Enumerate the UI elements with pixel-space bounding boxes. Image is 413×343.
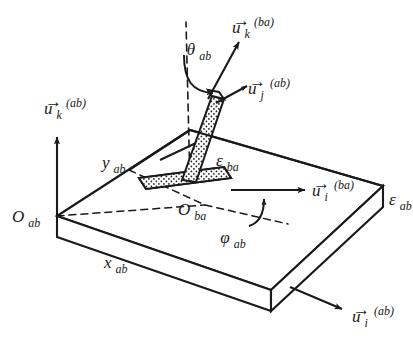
label-u-i-ab: → (ab) u i: [352, 300, 394, 330]
label-u-k-ba-sub: k: [245, 27, 251, 41]
vector-u-k-ba: [208, 42, 239, 99]
label-u-k-ab-base: u: [44, 99, 53, 118]
label-epsilon-ab-base: ε: [389, 190, 396, 209]
vector-u-k-ba-shaft: [208, 42, 239, 99]
label-epsilon-ba-base: ε: [216, 151, 223, 170]
label-u-j-ab-sub: j: [259, 88, 265, 102]
label-u-i-ab-sub: i: [365, 316, 368, 330]
label-phi-ab-base: φ: [220, 228, 229, 247]
label-u-j-ab-sup: (ab): [270, 76, 290, 90]
label-axis-y-ab-base: y: [100, 153, 110, 172]
label-origin-ab-sub: ab: [28, 216, 40, 230]
label-origin-ab-base: O: [12, 207, 24, 226]
label-origin-ba-base: O: [178, 200, 190, 219]
label-origin-ba-sub: ba: [194, 209, 206, 223]
label-u-i-ba-base: u: [312, 181, 321, 200]
label-axis-x-ab-sub: ab: [116, 262, 128, 276]
vector-u-i-ab-shaft: [290, 287, 342, 309]
label-u-k-ab-sup: (ab): [66, 96, 86, 110]
label-u-k-ab-sub: k: [57, 108, 63, 122]
label-epsilon-ab: ε ab: [389, 190, 412, 213]
label-epsilon-ab-sub: ab: [400, 199, 412, 213]
label-axis-y-ab-sub: ab: [114, 162, 126, 176]
label-phi-ab-sub: ab: [234, 237, 246, 251]
label-u-i-ab-sup: (ab): [374, 304, 394, 318]
label-axis-y-ab: y ab: [100, 153, 126, 176]
label-theta-ab-base: θ: [187, 40, 195, 59]
label-epsilon-ba-sub: ba: [227, 160, 239, 174]
label-theta-ab: θ ab: [187, 40, 211, 63]
label-u-i-ba-sup: (ba): [334, 178, 354, 192]
label-axis-x-ab-base: x: [103, 253, 112, 272]
label-u-k-ab: → (ab) u k: [44, 92, 86, 122]
label-u-j-ab: → (ab) u j: [248, 72, 290, 102]
label-u-k-ba-base: u: [232, 18, 241, 37]
label-origin-ab: O ab: [12, 207, 40, 230]
vector-u-i-ab: [290, 287, 342, 309]
label-theta-ab-sub: ab: [199, 49, 211, 63]
label-u-j-ab-base: u: [248, 79, 257, 98]
label-u-k-ba-sup: (ba): [254, 15, 274, 29]
label-u-i-ba-sub: i: [325, 190, 328, 204]
label-u-i-ab-base: u: [352, 307, 361, 326]
label-u-k-ba: → (ba) u k: [232, 11, 274, 41]
diagram-canvas: → (ba) u k → (ab) u j → (ab) u k →: [0, 0, 413, 343]
